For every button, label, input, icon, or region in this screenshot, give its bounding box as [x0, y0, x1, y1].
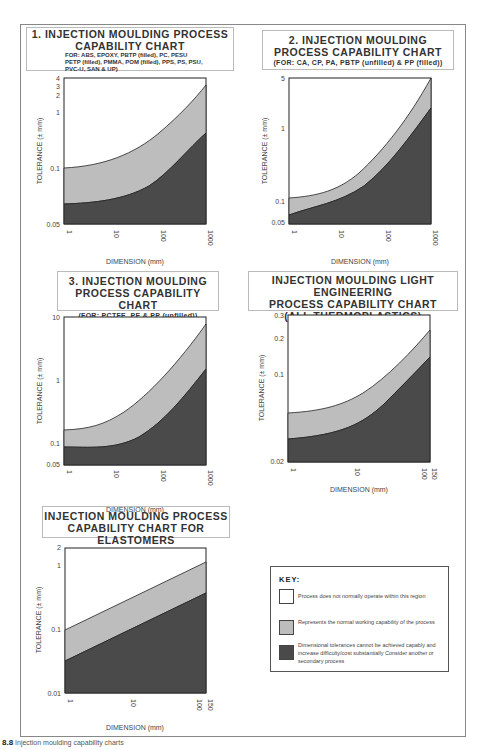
key-label-dark: Dimensional tolerances cannot be achieve… — [298, 641, 446, 665]
figure-caption-text: Injection moulding capability charts — [15, 739, 124, 746]
svg-text:2: 2 — [57, 544, 61, 551]
svg-text:10: 10 — [130, 699, 137, 707]
figure-number: 8.8 — [2, 738, 13, 747]
svg-text:1: 1 — [67, 699, 74, 703]
svg-text:0.1: 0.1 — [51, 626, 61, 633]
key-label-grey: Represents the normal working capability… — [298, 618, 446, 626]
figure-caption: 8.8 Injection moulding capability charts — [2, 738, 124, 747]
legend-key: KEY: Process does not normally operate w… — [270, 566, 449, 672]
key-swatch-white — [279, 589, 294, 604]
svg-text:1: 1 — [57, 562, 61, 569]
svg-text:TOLERANCE (± mm): TOLERANCE (± mm) — [35, 587, 43, 654]
svg-text:150: 150 — [207, 699, 214, 711]
svg-text:DIMENSION (mm): DIMENSION (mm) — [106, 724, 164, 732]
key-swatch-grey — [279, 620, 294, 635]
key-title: KEY: — [279, 575, 300, 584]
svg-text:100: 100 — [196, 699, 203, 711]
key-swatch-dark — [279, 645, 294, 660]
svg-text:0.01: 0.01 — [47, 690, 61, 697]
key-label-white: Process does not normally operate within… — [298, 592, 446, 600]
